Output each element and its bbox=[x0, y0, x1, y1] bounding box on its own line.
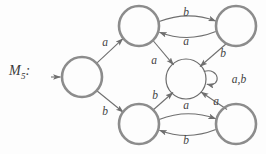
edge-label-start-topleft: a bbox=[102, 36, 108, 48]
state-top-left bbox=[119, 6, 159, 46]
edge-label-bottomright-bottomleft: b bbox=[183, 134, 189, 146]
state-bottom-right bbox=[216, 104, 256, 144]
edge-label-topleft-center: a bbox=[151, 54, 157, 66]
edge-start-to-topleft bbox=[97, 39, 124, 64]
edge-label-topleft-topright: b bbox=[183, 6, 189, 18]
edge-label-bottomleft-bottomright: a bbox=[183, 99, 189, 111]
state-start bbox=[62, 57, 102, 97]
state-bottom-left bbox=[119, 104, 159, 144]
edge-label-topright-topleft: a bbox=[183, 35, 189, 47]
edge-label-bottomright-center: a bbox=[213, 95, 219, 107]
state-center bbox=[166, 59, 206, 99]
edge-label-bottomleft-center: b bbox=[152, 89, 158, 101]
state-top-right bbox=[216, 6, 256, 46]
automaton-diagram: M5: bbox=[0, 0, 266, 154]
edge-start-to-bottomleft bbox=[96, 90, 123, 112]
diagram-canvas bbox=[0, 0, 266, 154]
edge-bottomleft-to-bottomright bbox=[159, 114, 216, 120]
edge-label-topright-center: b bbox=[220, 47, 226, 59]
edge-label-start-bottomleft: b bbox=[102, 105, 108, 117]
edge-label-self-loop: a,b bbox=[232, 73, 246, 85]
